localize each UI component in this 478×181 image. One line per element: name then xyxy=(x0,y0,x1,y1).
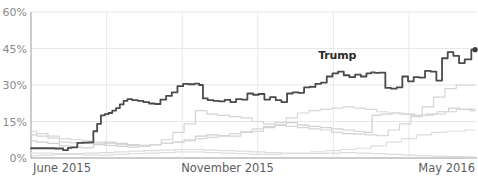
ytick-label-0: 0% xyxy=(10,152,27,165)
xtick-label-1: November 2015 xyxy=(181,161,274,175)
endpoint-marker-Trump xyxy=(473,47,478,52)
series-annotation-trump: Trump xyxy=(318,49,356,62)
xtick-label-0: June 2015 xyxy=(32,161,91,175)
poll-trendline-chart: 60%45%30%15%0%June 2015November 2015May … xyxy=(0,0,478,181)
ytick-label-30: 30% xyxy=(3,79,27,92)
ytick-label-45: 45% xyxy=(3,43,27,56)
chart-canvas: 60%45%30%15%0%June 2015November 2015May … xyxy=(0,0,478,181)
ytick-label-60: 60% xyxy=(3,6,27,19)
ytick-label-15: 15% xyxy=(3,116,27,129)
xtick-label-2: May 2016 xyxy=(418,161,475,175)
